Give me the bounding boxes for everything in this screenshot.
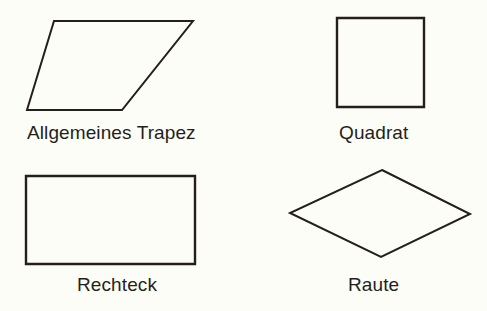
rhombus-label: Raute [348, 274, 399, 295]
parallelogram-shape [27, 21, 193, 110]
quadrilateral-types-figure: Allgemeines Trapez Quadrat Rechteck Raut… [0, 0, 487, 311]
shapes-canvas [0, 0, 487, 311]
rectangle-label: Rechteck [77, 274, 157, 295]
parallelogram-label: Allgemeines Trapez [27, 122, 196, 143]
square-label: Quadrat [339, 122, 408, 143]
square-shape [337, 18, 424, 107]
rectangle-shape [26, 176, 195, 264]
rhombus-shape [290, 170, 470, 257]
